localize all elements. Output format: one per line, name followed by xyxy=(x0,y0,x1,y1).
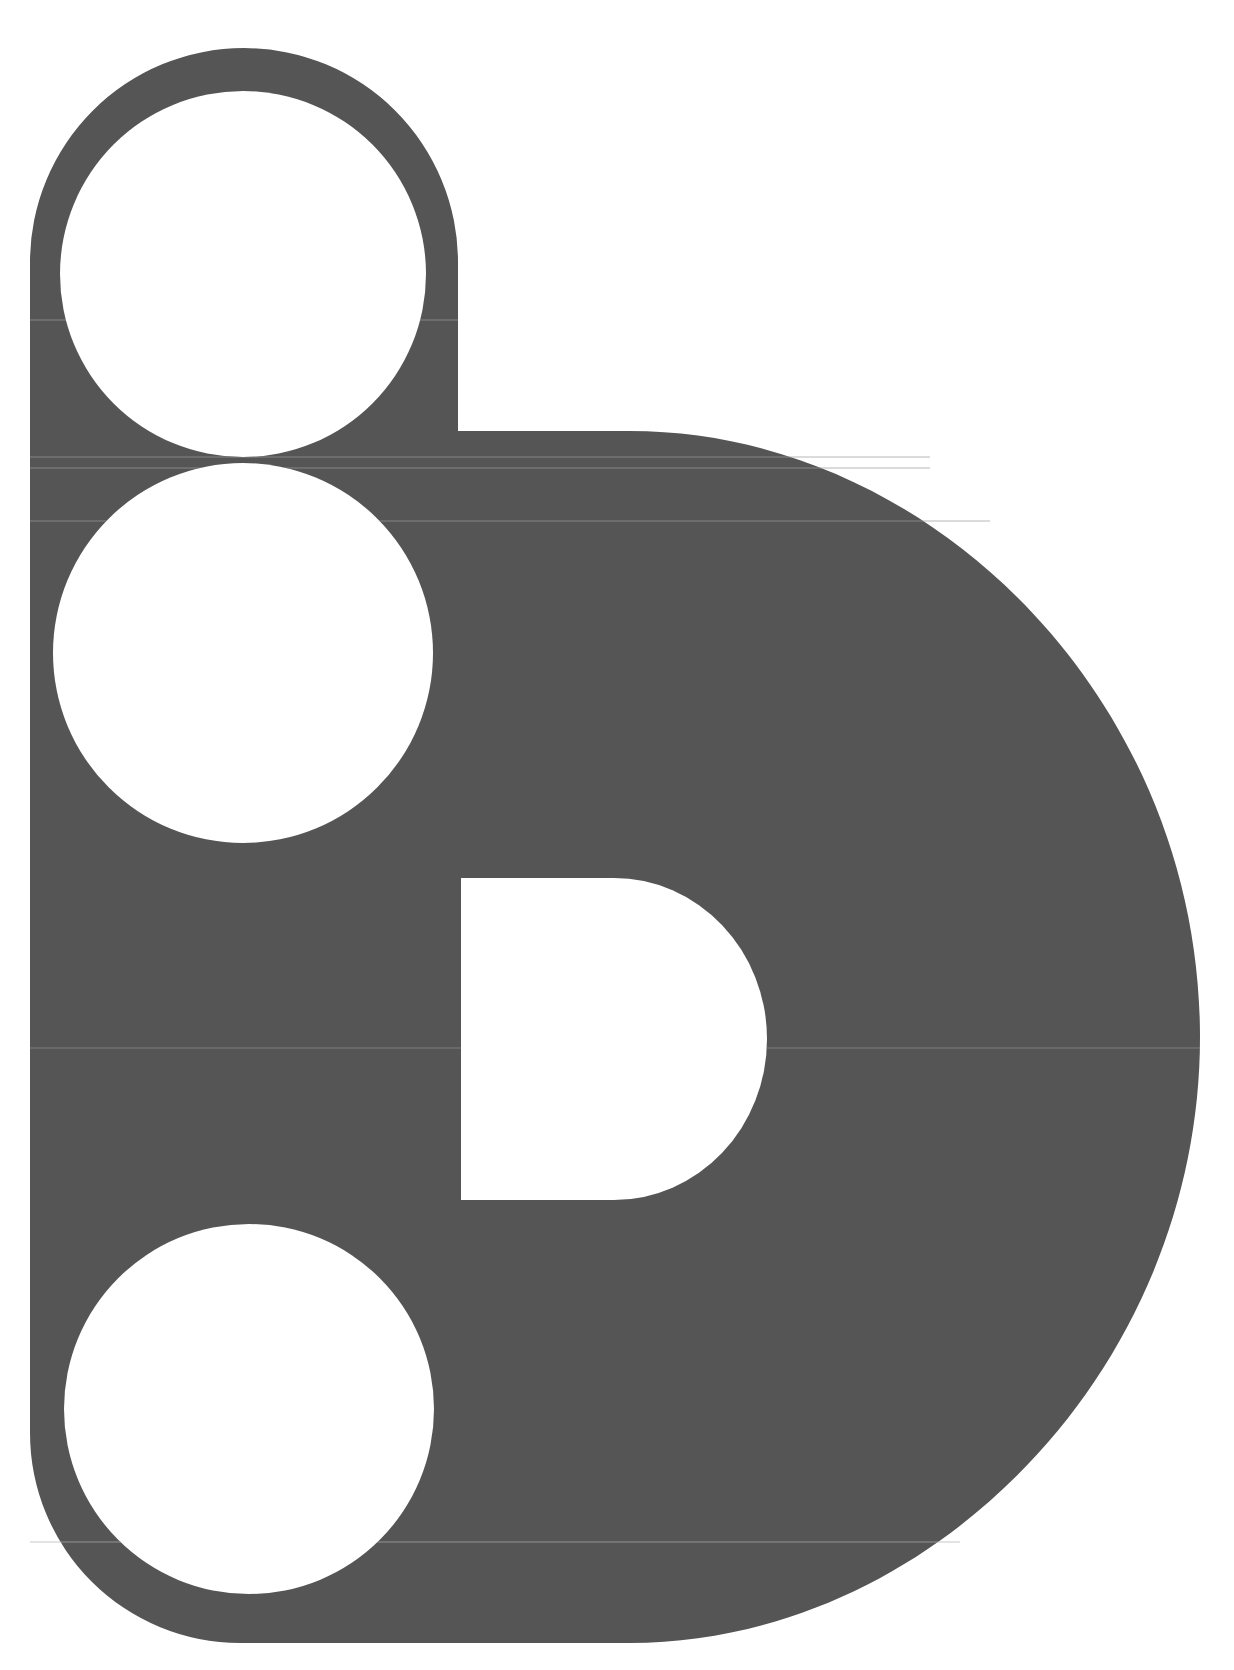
logo-mark xyxy=(0,0,1234,1670)
letter-d-logo-icon xyxy=(0,0,1234,1670)
d-shape-body xyxy=(30,48,1200,1643)
